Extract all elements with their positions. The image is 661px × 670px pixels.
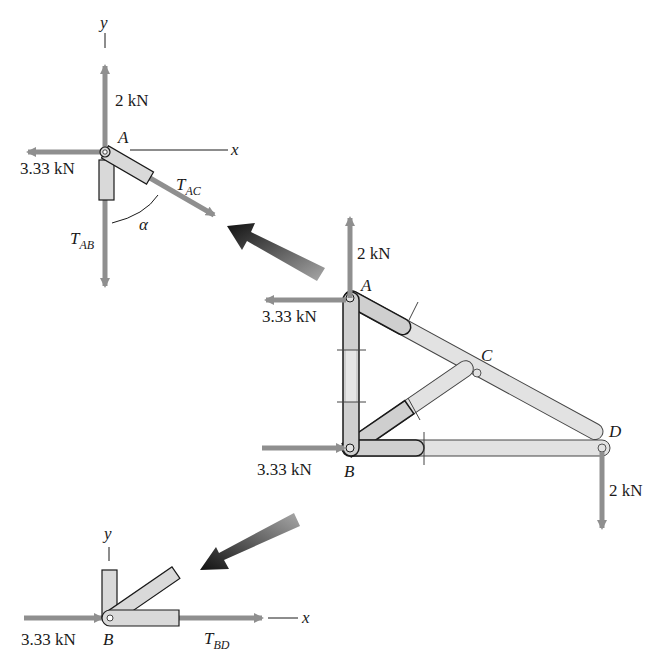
y-axis-label: y xyxy=(98,13,108,32)
member-stub-bd xyxy=(102,610,179,626)
pointer-arrow-to-fbd-b xyxy=(200,513,300,570)
pin-hole-a xyxy=(103,150,107,154)
member-ab-mid xyxy=(346,350,356,402)
member-stub-ab xyxy=(99,160,114,200)
pin-b xyxy=(107,615,113,621)
load-label-a-3-33kn: 3.33 kN xyxy=(262,307,317,326)
joint-label-a: A xyxy=(117,128,129,147)
y-axis-label: y xyxy=(102,524,112,543)
force-label-2kn: 2 kN xyxy=(115,91,149,110)
joint-label-b: B xyxy=(344,462,355,481)
force-label-3-33kn: 3.33 kN xyxy=(20,159,75,178)
tension-label-tab: TAB xyxy=(70,229,95,252)
fbd-joint-b: y x 3.33 kN B TBD xyxy=(21,524,310,652)
pointer-arrow-to-fbd-a xyxy=(227,223,325,281)
load-label-a-2kn: 2 kN xyxy=(357,244,391,263)
joint-label-a: A xyxy=(360,276,372,295)
x-axis-label: x xyxy=(230,140,239,159)
member-bd xyxy=(342,440,610,456)
joint-label-b: B xyxy=(103,630,114,649)
pin-c xyxy=(473,369,481,377)
cut-mark xyxy=(408,302,418,322)
joint-label-c: C xyxy=(481,346,493,365)
force-label-3-33kn: 3.33 kN xyxy=(21,630,76,649)
x-axis-label: x xyxy=(301,608,310,627)
load-label-b-3-33kn: 3.33 kN xyxy=(257,460,312,479)
fbd-joint-a: y x 2 kN 3.33 kN A TAC TAB α xyxy=(20,13,239,286)
angle-label-alpha: α xyxy=(139,215,149,234)
pin-d xyxy=(598,444,606,452)
joint-label-d: D xyxy=(608,422,622,441)
load-label-d-2kn: 2 kN xyxy=(609,481,643,500)
angle-arc-alpha xyxy=(112,195,158,223)
tension-label-tbd: TBD xyxy=(204,629,230,652)
pin-b xyxy=(346,444,354,452)
truss-diagram: y x 2 kN 3.33 kN A TAC TAB α xyxy=(0,0,661,670)
